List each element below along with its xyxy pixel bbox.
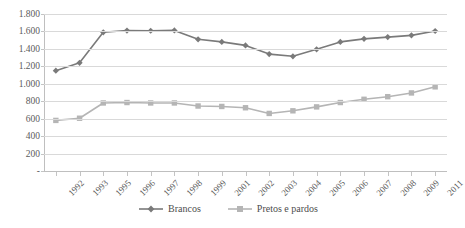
legend-item-pretos-e-pardos[interactable]: Pretos e pardos (227, 203, 318, 215)
x-axis-tick-label: 2001 (232, 178, 252, 198)
x-axis-tick-mark (317, 172, 318, 176)
data-point-marker (409, 90, 414, 95)
x-axis-tick-mark (151, 172, 152, 176)
x-axis-tick-label: 1993 (90, 178, 110, 198)
legend-label: Pretos e pardos (257, 203, 318, 215)
gridline (44, 49, 447, 50)
x-axis-tick-label: 1999 (208, 178, 228, 198)
y-axis-tick-mark (41, 119, 44, 120)
data-point-marker (219, 39, 225, 45)
data-point-marker (195, 36, 201, 42)
legend-key-diamond-icon (138, 204, 164, 214)
data-point-marker (266, 51, 272, 57)
y-axis-tick-label: 200 (2, 149, 40, 159)
y-axis-tick-label: 1.800 (2, 9, 40, 19)
x-axis-tick-label: 1998 (185, 178, 205, 198)
y-axis-tick-mark (41, 49, 44, 50)
data-point-marker (385, 94, 390, 99)
data-point-marker (242, 42, 248, 48)
gridline (44, 84, 447, 85)
y-axis-tick-mark (41, 171, 44, 172)
x-axis-tick-label: 2011 (445, 178, 465, 198)
x-axis-tick-mark (246, 172, 247, 176)
x-axis-tick-label: 2006 (351, 178, 371, 198)
legend-item-brancos[interactable]: Brancos (138, 203, 201, 215)
legend-key-square-icon (227, 204, 253, 214)
y-axis-tick-label: 1.600 (2, 26, 40, 36)
y-axis-tick-label: - (2, 166, 40, 176)
y-axis-tick-mark (41, 14, 44, 15)
x-axis-tick-label: 2008 (398, 178, 418, 198)
y-axis-labels: -2004006008001.0001.2001.4001.6001.800 (0, 0, 40, 228)
y-axis-tick-label: 600 (2, 114, 40, 124)
x-axis-tick-mark (435, 172, 436, 176)
gridline (44, 31, 447, 32)
series-line-brancos (56, 30, 435, 70)
x-axis-tick-mark (127, 172, 128, 176)
x-axis-tick-mark (56, 172, 57, 176)
x-axis-tick-label: 2009 (422, 178, 442, 198)
data-point-marker (408, 32, 414, 38)
x-axis-tick-label: 2005 (327, 178, 347, 198)
y-axis-tick-mark (41, 31, 44, 32)
y-axis-tick-label: 1.200 (2, 61, 40, 71)
chart-title (0, 0, 456, 2)
x-axis-tick-mark (269, 172, 270, 176)
x-axis-tick-mark (174, 172, 175, 176)
data-point-marker (290, 108, 295, 113)
series-overlay (44, 14, 447, 171)
x-axis-tick-label: 2003 (279, 178, 299, 198)
data-point-marker (385, 34, 391, 40)
x-axis-tick-mark (293, 172, 294, 176)
y-axis-tick-mark (41, 154, 44, 155)
x-axis-tick-label: 1996 (137, 178, 157, 198)
data-point-marker (267, 111, 272, 116)
data-point-marker (53, 68, 59, 74)
x-axis-tick-label: 2002 (256, 178, 276, 198)
y-axis-tick-mark (41, 84, 44, 85)
data-point-marker (361, 36, 367, 42)
x-axis-tick-label: 2004 (303, 178, 323, 198)
data-point-marker (337, 39, 343, 45)
y-axis-tick-mark (41, 66, 44, 67)
y-axis-tick-label: 1.400 (2, 44, 40, 54)
plot-area (44, 14, 447, 171)
data-point-marker (243, 105, 248, 110)
y-axis-tick-mark (41, 136, 44, 137)
x-axis-tick-label: 1995 (114, 178, 134, 198)
series-line-pretos-e-pardos (56, 87, 435, 121)
data-point-marker (314, 104, 319, 109)
y-axis-tick-label: 800 (2, 96, 40, 106)
x-axis-tick-mark (198, 172, 199, 176)
legend-label: Brancos (168, 203, 201, 215)
x-axis-tick-mark (222, 172, 223, 176)
x-axis-tick-mark (364, 172, 365, 176)
y-axis-tick-label: 1.000 (2, 79, 40, 89)
data-point-marker (219, 104, 224, 109)
data-point-marker (195, 103, 200, 108)
x-axis-tick-mark (103, 172, 104, 176)
gridline (44, 154, 447, 155)
data-point-marker (432, 84, 437, 89)
x-axis-tick-mark (388, 172, 389, 176)
x-axis-tick-mark (80, 172, 81, 176)
gridline (44, 66, 447, 67)
x-axis-tick-label: 1992 (66, 178, 86, 198)
chart-legend: BrancosPretos e pardos (0, 203, 456, 215)
gridline (44, 136, 447, 137)
data-point-marker (171, 27, 177, 33)
x-axis-tick-label: 1997 (161, 178, 181, 198)
gridline (44, 101, 447, 102)
gridline (44, 119, 447, 120)
y-axis-tick-label: 400 (2, 131, 40, 141)
y-axis-tick-mark (41, 101, 44, 102)
x-axis-tick-mark (411, 172, 412, 176)
data-point-marker (290, 53, 296, 59)
gridline (44, 14, 447, 15)
x-axis-tick-mark (340, 172, 341, 176)
x-axis-tick-label: 2007 (374, 178, 394, 198)
